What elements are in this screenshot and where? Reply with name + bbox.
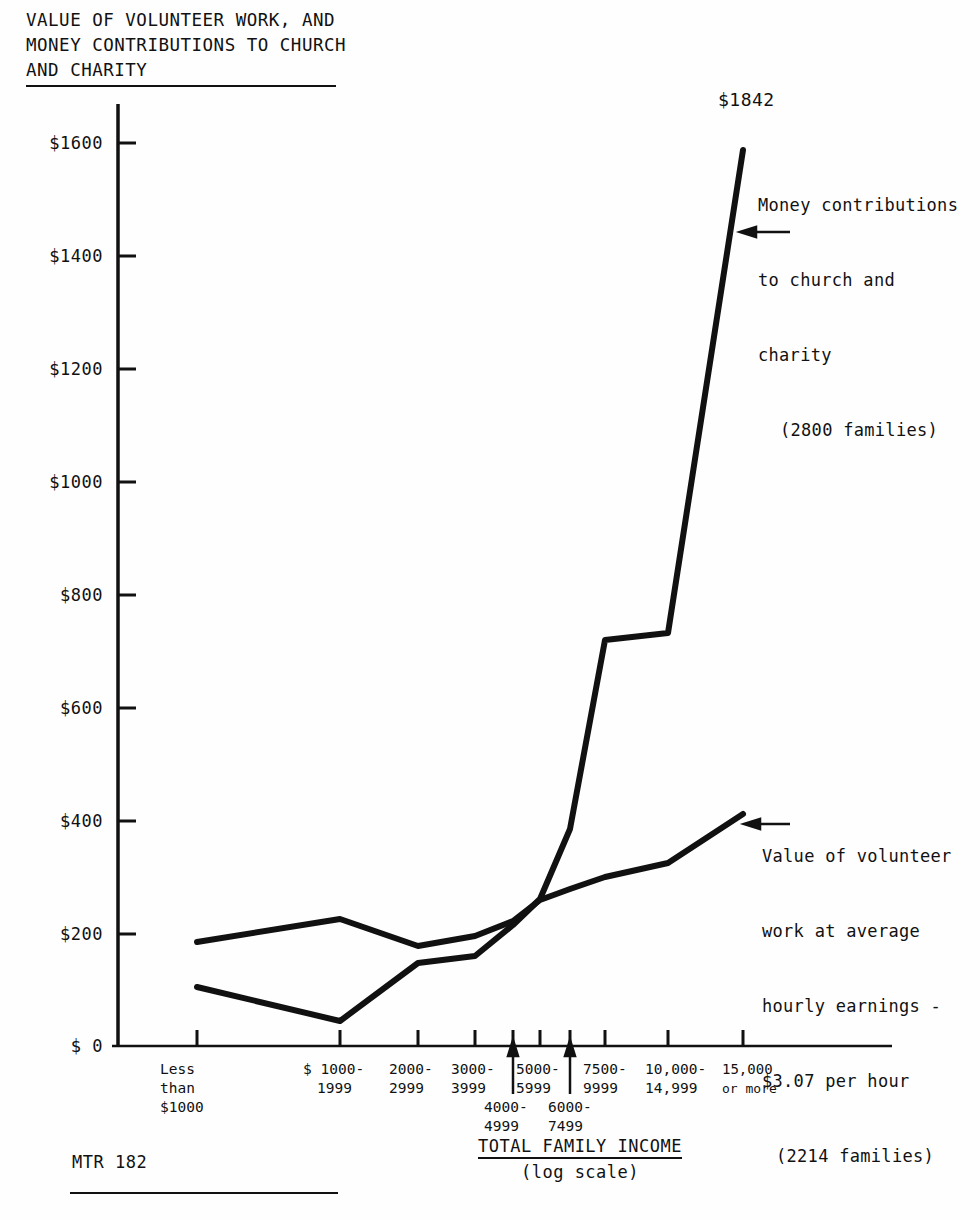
x-tick-label-1000-1999: $ 1000- 1999 (303, 1060, 364, 1098)
money-anno-line-3: charity (758, 343, 958, 368)
chart-root: VALUE OF VOLUNTEER WORK, AND MONEY CONTR… (0, 0, 980, 1220)
y-tick-label-800: $800 (8, 585, 103, 605)
x-axis-title-sub: (log scale) (430, 1162, 730, 1182)
volunteer-series-annotation: Value of volunteer work at average hourl… (762, 794, 952, 1219)
y-tick-label-600: $600 (8, 698, 103, 718)
y-tick-label-200: $200 (8, 924, 103, 944)
y-tick-label-0: $ 0 (8, 1036, 103, 1056)
x-tick-label-less-than: Less than $1000 (160, 1060, 204, 1117)
peak-value-label: $1842 (718, 89, 775, 110)
x-tick-label-2000-2999: 2000- 2999 (389, 1060, 433, 1098)
y-tick-label-1600: $1600 (8, 133, 103, 153)
footer-reference: MTR 182 (72, 1152, 147, 1172)
series-line-money-contributions (197, 150, 743, 1021)
x-tick-label-10000-14999: 10,000- 14,999 (645, 1060, 706, 1098)
x-tick-label-7500-9999: 7500- 9999 (583, 1060, 627, 1098)
y-tick-marks (118, 143, 136, 934)
y-tick-label-1400: $1400 (8, 246, 103, 266)
y-tick-label-1200: $1200 (8, 359, 103, 379)
y-tick-label-400: $400 (8, 811, 103, 831)
x-tick-label-3000-3999: 3000- 3999 (451, 1060, 495, 1098)
volunteer-anno-line-1: Value of volunteer (762, 844, 952, 869)
volunteer-anno-line-2: work at average (762, 919, 952, 944)
money-anno-line-4: (2800 families) (780, 418, 958, 443)
money-anno-line-1: Money contributions (758, 193, 958, 218)
volunteer-anno-line-4: $3.07 per hour (762, 1069, 952, 1094)
x-axis-title: TOTAL FAMILY INCOME (log scale) (430, 1136, 730, 1182)
volunteer-anno-line-5: (2214 families) (776, 1144, 952, 1169)
x-tick-label-4000-4999: 4000- 4999 (484, 1098, 528, 1136)
money-anno-line-2: to church and (758, 268, 958, 293)
x-tick-label-6000-7499: 6000- 7499 (548, 1098, 592, 1136)
series-line-volunteer-work (197, 814, 743, 946)
x-axis-title-main: TOTAL FAMILY INCOME (478, 1136, 682, 1159)
footer-underline (70, 1192, 338, 1194)
x-tick-marks (197, 1030, 743, 1046)
money-series-annotation: Money contributions to church and charit… (758, 143, 958, 493)
volunteer-anno-line-3: hourly earnings - (762, 994, 952, 1019)
y-tick-label-1000: $1000 (8, 472, 103, 492)
x-tick-label-5000-5999: 5000- 5999 (516, 1060, 560, 1098)
plot-area: $1600 $1400 $1200 $1000 $800 $600 $400 $… (0, 0, 980, 1220)
